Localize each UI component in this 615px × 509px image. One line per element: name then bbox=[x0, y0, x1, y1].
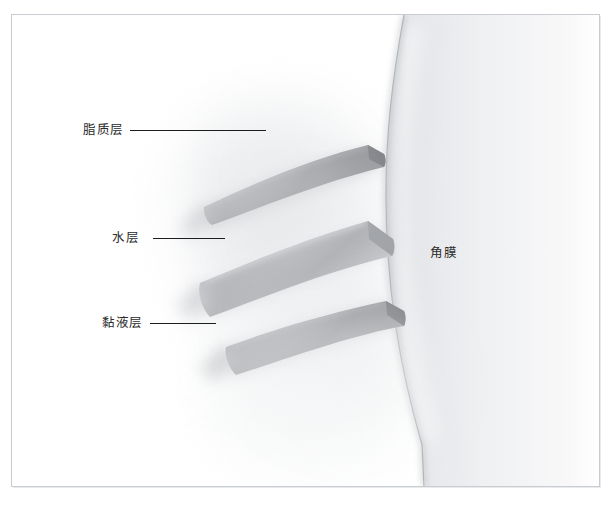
figure-root: 脂质层 水层 黏液层 角膜 bbox=[0, 0, 615, 509]
left-fade-wash bbox=[12, 15, 187, 486]
soft-shade-lower bbox=[202, 300, 422, 470]
label-lipid-layer: 脂质层 bbox=[83, 124, 124, 137]
leader-line-aqueous bbox=[153, 238, 225, 239]
cornea-body bbox=[386, 15, 599, 486]
label-mucin-layer: 黏液层 bbox=[102, 317, 143, 330]
label-aqueous-layer: 水层 bbox=[112, 232, 139, 245]
soft-shade-upper bbox=[167, 115, 357, 255]
leader-line-lipid bbox=[130, 130, 266, 131]
label-cornea: 角膜 bbox=[430, 247, 457, 260]
tear-film-illustration bbox=[12, 15, 599, 486]
leader-line-mucin bbox=[150, 323, 216, 324]
